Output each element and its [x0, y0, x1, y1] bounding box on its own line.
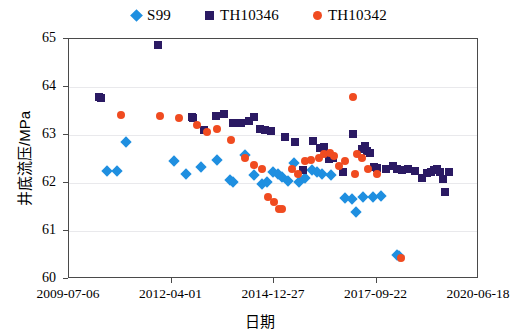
data-point-th10346 — [154, 41, 162, 49]
data-point-s99 — [180, 169, 191, 180]
y-tick-label: 64 — [16, 79, 56, 93]
scatter-chart: S99TH10346TH10342 606162636465 2009-07-0… — [0, 0, 519, 332]
y-tick-mark — [63, 86, 68, 87]
data-point-th10346 — [267, 127, 275, 135]
data-point-th10342 — [156, 112, 164, 120]
square-marker-icon — [205, 11, 214, 20]
legend-label: S99 — [147, 8, 171, 23]
x-tick-label: 2017-09-22 — [330, 287, 422, 301]
data-point-s99 — [350, 206, 361, 217]
data-point-th10342 — [330, 152, 338, 160]
y-tick-mark — [63, 182, 68, 183]
x-tick-label: 2009-07-06 — [22, 287, 114, 301]
x-tick-label: 2012-04-01 — [125, 287, 217, 301]
data-point-th10346 — [349, 130, 357, 138]
data-point-th10346 — [445, 168, 453, 176]
data-point-th10342 — [278, 205, 286, 213]
data-point-th10342 — [203, 128, 211, 136]
data-point-th10342 — [307, 156, 315, 164]
y-tick-label: 61 — [16, 223, 56, 237]
gridline-y — [69, 183, 477, 184]
data-point-th10342 — [349, 93, 357, 101]
chart-legend: S99TH10346TH10342 — [0, 4, 519, 26]
plot-area — [68, 38, 478, 278]
data-point-th10342 — [294, 170, 302, 178]
data-point-th10346 — [250, 113, 258, 121]
legend-item-s99[interactable]: S99 — [132, 8, 171, 23]
data-point-th10342 — [258, 165, 266, 173]
diamond-marker-icon — [130, 9, 143, 22]
data-point-th10342 — [227, 136, 235, 144]
data-point-s99 — [357, 192, 368, 203]
data-point-th10346 — [291, 138, 299, 146]
data-point-th10342 — [117, 111, 125, 119]
data-point-th10342 — [213, 125, 221, 133]
data-point-s99 — [376, 191, 387, 202]
x-tick-label: 2020-06-18 — [432, 287, 519, 301]
y-tick-label: 65 — [16, 31, 56, 45]
x-axis-title: 日期 — [0, 310, 519, 331]
data-point-s99 — [211, 154, 222, 165]
data-point-s99 — [121, 137, 132, 148]
data-point-th10342 — [397, 254, 405, 262]
legend-label: TH10342 — [328, 8, 387, 23]
data-point-th10346 — [281, 133, 289, 141]
data-point-th10342 — [175, 114, 183, 122]
y-tick-label: 60 — [16, 271, 56, 285]
data-point-th10346 — [220, 110, 228, 118]
data-point-th10346 — [212, 112, 220, 120]
data-point-th10342 — [358, 154, 366, 162]
y-tick-mark — [63, 134, 68, 135]
data-point-th10346 — [229, 119, 237, 127]
y-axis-title: 井底流压/MPa — [13, 94, 34, 224]
legend-item-th10342[interactable]: TH10342 — [313, 8, 387, 23]
data-point-th10346 — [441, 188, 449, 196]
y-tick-mark — [63, 230, 68, 231]
data-point-s99 — [326, 170, 337, 181]
circle-marker-icon — [313, 11, 322, 20]
legend-label: TH10346 — [220, 8, 279, 23]
data-point-th10342 — [364, 165, 372, 173]
y-tick-mark — [63, 278, 68, 279]
legend-item-th10346[interactable]: TH10346 — [205, 8, 279, 23]
data-point-th10342 — [341, 157, 349, 165]
x-tick-label: 2014-12-27 — [227, 287, 319, 301]
data-point-th10342 — [373, 170, 381, 178]
gridline-y — [69, 87, 477, 88]
data-point-th10342 — [351, 170, 359, 178]
data-point-th10346 — [97, 94, 105, 102]
data-point-th10346 — [366, 149, 374, 157]
gridline-y — [69, 231, 477, 232]
x-tick-mark — [273, 278, 274, 283]
x-tick-mark — [376, 278, 377, 283]
data-point-s99 — [111, 165, 122, 176]
y-tick-mark — [63, 38, 68, 39]
x-tick-mark — [171, 278, 172, 283]
data-point-th10342 — [241, 154, 249, 162]
data-point-th10342 — [193, 121, 201, 129]
data-point-s99 — [168, 156, 179, 167]
data-point-s99 — [196, 161, 207, 172]
